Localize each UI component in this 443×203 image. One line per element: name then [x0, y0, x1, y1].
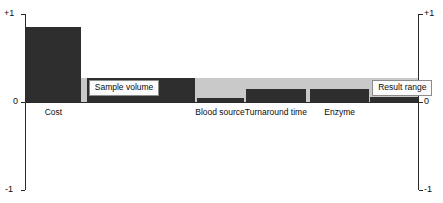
right-axis-label-plus-one: +1 [424, 9, 434, 18]
zero-baseline [26, 102, 418, 103]
inline-label-result-range: Result range [372, 80, 432, 96]
left-axis-tick-minus-one [21, 190, 25, 191]
bar-enzyme [310, 89, 369, 102]
sensitivity-bar-chart: +1 0 -1 +1 0 -1 Sample volumeResult rang… [0, 0, 443, 203]
bar-cost [26, 27, 81, 102]
category-label-enzyme: Enzyme [324, 108, 355, 117]
left-axis-label-zero: 0 [13, 97, 18, 106]
right-axis-tick-zero [419, 102, 423, 103]
inline-label-sample-volume: Sample volume [89, 80, 160, 96]
right-axis-tick-minus-one [419, 190, 423, 191]
left-axis-tick-zero [21, 102, 25, 103]
right-axis-label-zero: 0 [424, 97, 429, 106]
left-axis-tick-plus-one [21, 14, 25, 15]
bar-turnaround-time [246, 89, 307, 102]
category-label-blood-source: Blood source [195, 108, 245, 117]
right-axis-tick-plus-one [419, 14, 423, 15]
category-label-turnaround-time: Turnaround time [245, 108, 307, 117]
left-axis-label-plus-one: +1 [4, 9, 14, 18]
left-axis-label-minus-one: -1 [5, 185, 13, 194]
right-axis-label-minus-one: -1 [424, 185, 432, 194]
plot-area: Sample volumeResult range CostBlood sour… [26, 14, 418, 190]
category-label-cost: Cost [45, 108, 62, 117]
